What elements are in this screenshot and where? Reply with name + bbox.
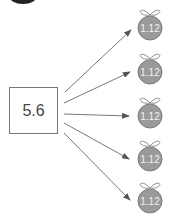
gift-bag: 1.12	[138, 10, 162, 40]
arrow-5	[64, 133, 130, 200]
bag-value: 1.12	[140, 23, 160, 34]
arrows	[64, 30, 131, 200]
bag-value: 1.12	[140, 67, 160, 78]
bag-value: 1.12	[140, 154, 160, 165]
gift-bag: 1.12	[138, 141, 162, 171]
source-value: 5.6	[22, 102, 44, 119]
corner-circle-icon	[9, 0, 37, 4]
arrow-4	[64, 123, 129, 159]
bag-value: 1.12	[140, 111, 160, 122]
bag-value: 1.12	[140, 196, 160, 207]
arrow-3	[64, 114, 129, 116]
division-diagram: 5.6 1.12 1.12 1.12 1.12 1.12	[0, 0, 176, 216]
bow-icon	[140, 141, 160, 146]
bow-icon	[140, 54, 160, 59]
bow-icon	[140, 98, 160, 103]
source-box: 5.6	[10, 88, 58, 134]
gift-bag: 1.12	[138, 183, 162, 213]
gift-bag: 1.12	[138, 98, 162, 128]
arrow-1	[65, 30, 131, 92]
bow-icon	[140, 10, 160, 15]
arrow-2	[64, 72, 130, 103]
bow-icon	[140, 183, 160, 188]
gift-bag: 1.12	[138, 54, 162, 84]
